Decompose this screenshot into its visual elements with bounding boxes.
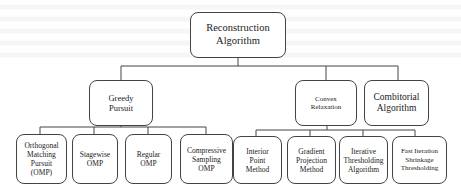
- node-fast-iteration-shrinkage-thresholding: Fast Iteration Shrinkage Thresholding: [392, 136, 447, 184]
- node-label: Interior Point Method: [246, 147, 269, 174]
- node-label: Regular OMP: [137, 150, 161, 168]
- node-label: Orthogonal Matching Pursuit (OMP): [24, 141, 58, 177]
- node-label: Fast Iteration Shrinkage Thresholding: [401, 147, 438, 172]
- node-greedy-pursuit: Greedy Pursuit: [89, 80, 153, 126]
- node-label: Convex Relaxation: [311, 95, 341, 112]
- node-label: Greedy Pursuit: [108, 93, 133, 113]
- node-convex-relaxation: Convex Relaxation: [295, 80, 357, 126]
- node-label: Iterative Thresholding Algorithm: [344, 147, 384, 174]
- node-label: Reconstruction Algorithm: [206, 22, 270, 47]
- node-iterative-thresholding-algorithm: Iterative Thresholding Algorithm: [339, 136, 388, 184]
- node-omp: Orthogonal Matching Pursuit (OMP): [16, 134, 67, 184]
- node-regular-omp: Regular OMP: [125, 134, 172, 184]
- node-combitorial-algorithm: Combitorial Algorithm: [364, 80, 429, 126]
- node-label: Gradient Projection Method: [296, 147, 327, 174]
- node-label: Compressive Sampling OMP: [187, 146, 226, 173]
- node-interior-point-method: Interior Point Method: [233, 136, 282, 184]
- node-stagewise-omp: Stagewise OMP: [72, 134, 118, 184]
- node-compressive-sampling-omp: Compressive Sampling OMP: [180, 134, 233, 184]
- node-label: Stagewise OMP: [80, 150, 110, 168]
- node-label: Combitorial Algorithm: [374, 92, 420, 115]
- node-gradient-projection-method: Gradient Projection Method: [287, 136, 336, 184]
- node-reconstruction-algorithm: Reconstruction Algorithm: [190, 12, 286, 58]
